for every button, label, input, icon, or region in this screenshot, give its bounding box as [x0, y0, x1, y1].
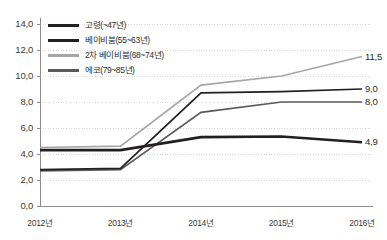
- legend-color-swatch: [48, 69, 79, 71]
- legend-color-swatch: [48, 54, 79, 56]
- chart-legend: 고령(~47년)베이비붐(55~63년)2차 베이비붐(68~74년)에코(79…: [48, 18, 164, 78]
- y-axis-tick-label: 4,0: [0, 149, 33, 159]
- legend-item: 고령(~47년): [48, 18, 164, 33]
- x-axis-tick-label: 2016년: [332, 219, 387, 228]
- legend-item-label: 에코(79~85년): [85, 66, 135, 75]
- series-value-label: 11,5: [365, 52, 382, 62]
- series-value-label: 9,0: [365, 84, 378, 94]
- x-axis-tick-label: 2012년: [10, 219, 70, 228]
- legend-item-label: 고령(~47년): [85, 21, 126, 30]
- y-axis-tick-label: 10,0: [0, 71, 33, 81]
- x-axis-tick-label: 2015년: [252, 219, 312, 228]
- legend-item: 베이비붐(55~63년): [48, 33, 164, 48]
- legend-item: 에코(79~85년): [48, 63, 164, 78]
- x-axis-tick-label: 2013년: [91, 219, 151, 228]
- y-axis-tick-label: 14,0: [0, 19, 33, 29]
- legend-color-swatch: [48, 24, 79, 27]
- y-axis-tick-label: 2,0: [0, 175, 33, 185]
- x-axis-tick-label: 2014년: [171, 219, 231, 228]
- y-axis-tick-label: 8,0: [0, 97, 33, 107]
- series-value-label: 4,9: [365, 137, 378, 147]
- legend-item: 2차 베이비붐(68~74년): [48, 48, 164, 63]
- series-line: [40, 89, 362, 170]
- series-line: [40, 136, 362, 150]
- legend-item-label: 베이비붐(55~63년): [85, 36, 150, 45]
- y-axis-tick-label: 6,0: [0, 123, 33, 133]
- series-value-label: 8,0: [365, 97, 378, 107]
- y-axis-tick-label: 0,0: [0, 201, 33, 211]
- y-axis-tick-label: 12,0: [0, 45, 33, 55]
- legend-item-label: 2차 베이비붐(68~74년): [85, 51, 164, 60]
- legend-color-swatch: [48, 39, 79, 42]
